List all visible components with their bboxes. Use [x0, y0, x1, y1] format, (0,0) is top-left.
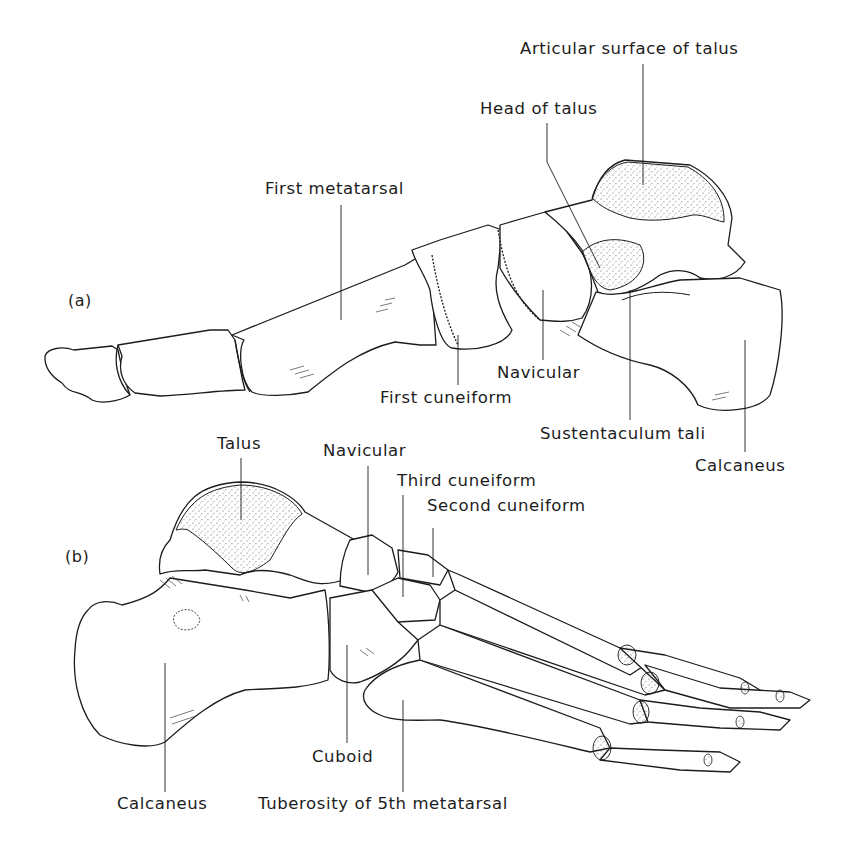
calcaneus-a	[578, 278, 782, 410]
panel-a-tag: (a)	[68, 291, 92, 311]
panel-a-bones	[45, 160, 782, 410]
label-talus: Talus	[217, 434, 261, 454]
label-tuberosity-of-5th-metatarsal: Tuberosity of 5th metatarsal	[258, 794, 508, 814]
label-third-cuneiform: Third cuneiform	[397, 471, 537, 491]
label-cuboid: Cuboid	[312, 747, 373, 767]
first-metatarsal-a	[232, 250, 438, 395]
label-articular-surface-of-talus: Articular surface of talus	[520, 39, 739, 59]
label-calcaneus-b: Calcaneus	[117, 794, 207, 814]
bone-illustration	[0, 0, 852, 856]
label-head-of-talus: Head of talus	[480, 99, 598, 119]
label-first-metatarsal: First metatarsal	[265, 179, 404, 199]
label-calcaneus-a: Calcaneus	[695, 456, 785, 476]
calcaneus-b	[74, 578, 329, 746]
label-navicular-a: Navicular	[497, 363, 580, 383]
foot-skeleton-figure: Articular surface of talus Head of talus…	[0, 0, 852, 856]
label-first-cuneiform: First cuneiform	[380, 388, 512, 408]
proximal-phalanx-a	[118, 330, 245, 396]
label-sustentaculum-tali: Sustentaculum tali	[540, 424, 706, 444]
panel-b-bones	[74, 482, 810, 772]
label-second-cuneiform: Second cuneiform	[427, 496, 586, 516]
label-navicular-b: Navicular	[323, 441, 406, 461]
distal-phalanx-a	[45, 346, 130, 402]
panel-b-tag: (b)	[65, 547, 89, 567]
